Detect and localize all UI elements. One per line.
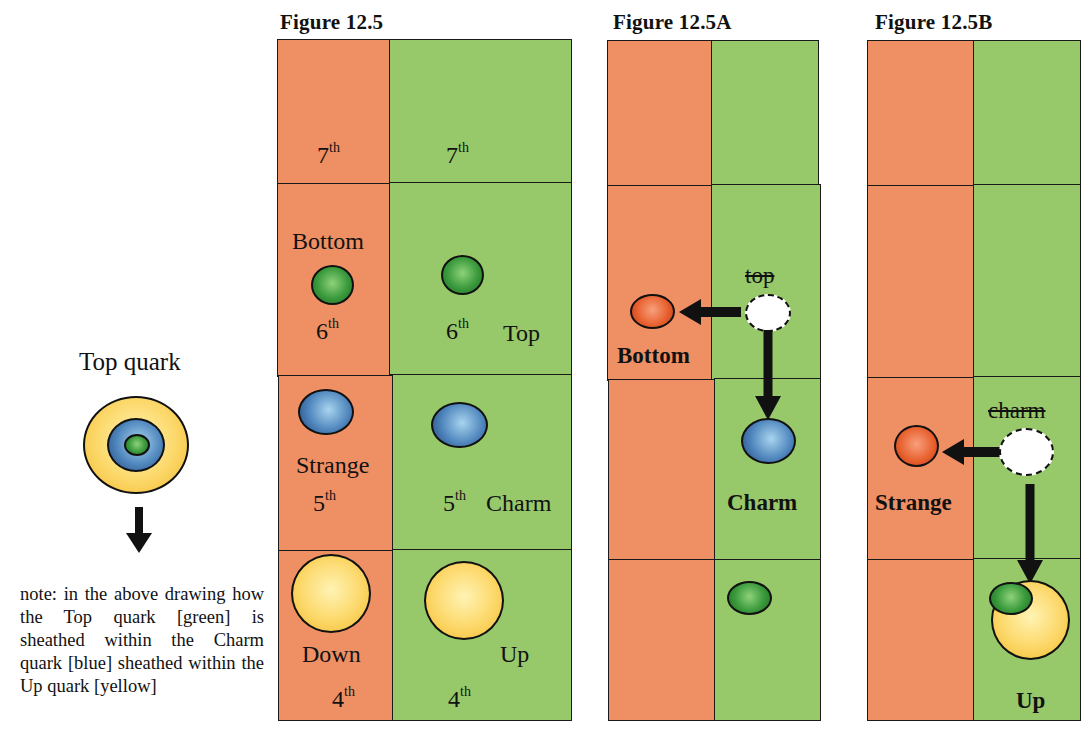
top-quark-nested-icon (83, 396, 189, 494)
bottom-result-label: Bottom (617, 343, 690, 369)
figure-title: Figure 12.5B (875, 10, 993, 35)
bottom-quark-icon (630, 294, 675, 329)
legend-note: note: in the above drawing how the Top q… (20, 583, 264, 698)
top-label: Top (503, 320, 540, 347)
strange-quark-icon (894, 425, 939, 467)
row-7-right-label: 7th (446, 142, 469, 169)
up-label: Up (500, 641, 529, 668)
suffix: th (460, 684, 471, 699)
struck-top-label: top (745, 263, 774, 289)
figure-title: Figure 12.5 (280, 10, 383, 35)
suffix: th (329, 140, 340, 155)
vacated-charm-icon (999, 428, 1054, 476)
cell-4-left (608, 559, 716, 721)
charm-quark-icon (741, 418, 796, 464)
arrow-down-icon (1017, 484, 1043, 584)
num: 5 (313, 490, 325, 516)
row-4-right-label: 4th (448, 686, 471, 713)
top-quark-icon (989, 582, 1033, 615)
suffix: th (458, 316, 469, 331)
up-result-label: Up (1016, 688, 1045, 714)
row-7-left-label: 7th (317, 142, 340, 169)
legend-title: Top quark (79, 348, 181, 376)
up-quark-icon (424, 561, 504, 640)
num: 4 (448, 686, 460, 712)
strange-label: Strange (296, 452, 369, 479)
vacated-top-icon (745, 294, 791, 332)
row-5-left-label: 5th (313, 490, 336, 517)
suffix: th (325, 488, 336, 503)
charm-quark-icon (431, 402, 488, 448)
cell-7-right (711, 40, 819, 186)
cell-6-right (973, 184, 1081, 378)
num: 4 (332, 686, 344, 712)
top-quark-icon (727, 581, 772, 615)
struck-charm-label: charm (988, 398, 1045, 424)
num: 7 (317, 142, 329, 168)
num: 5 (443, 490, 455, 516)
row-6-right-label: 6th (446, 318, 469, 345)
cell-4-right (714, 559, 821, 721)
cell-7-right (973, 40, 1081, 186)
charm-result-label: Charm (727, 490, 797, 516)
arrow-left-icon (679, 297, 741, 327)
row-4-left-label: 4th (332, 686, 355, 713)
arrow-left-icon (942, 437, 1004, 467)
suffix: th (344, 684, 355, 699)
suffix: th (458, 140, 469, 155)
num: 7 (446, 142, 458, 168)
cell-7-right (389, 39, 572, 184)
cell-4-left (867, 559, 975, 721)
num: 6 (316, 318, 328, 344)
strange-result-label: Strange (875, 490, 952, 516)
top-layer-icon (124, 434, 150, 456)
cell-5-left (867, 377, 975, 561)
bottom-quark-icon (311, 265, 354, 305)
cell-7-left (607, 40, 713, 187)
down-quark-icon (291, 554, 371, 633)
suffix: th (328, 316, 339, 331)
top-quark-icon (441, 255, 484, 295)
row-5-right-label: 5th (443, 490, 466, 517)
cell-5-left (608, 379, 716, 561)
row-6-left-label: 6th (316, 318, 339, 345)
cell-5-right (392, 374, 572, 551)
cell-7-left (867, 40, 975, 187)
down-label: Down (302, 641, 361, 668)
num: 6 (446, 318, 458, 344)
figure-title: Figure 12.5A (613, 10, 732, 35)
arrow-down-icon (755, 330, 781, 420)
suffix: th (455, 488, 466, 503)
bottom-label: Bottom (292, 228, 364, 255)
charm-label: Charm (486, 490, 551, 517)
arrow-down-icon (126, 507, 152, 555)
cell-6-left (867, 185, 975, 379)
strange-quark-icon (298, 389, 354, 435)
